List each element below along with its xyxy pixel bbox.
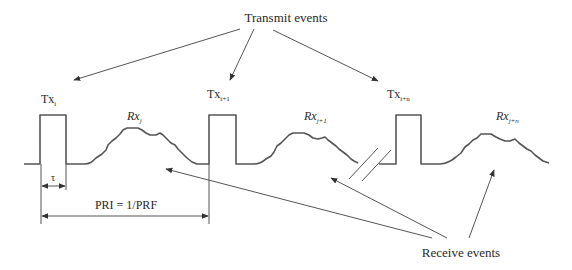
receive-events-label: Receive events bbox=[422, 245, 500, 260]
dimension-extension-lines bbox=[41, 164, 209, 224]
arrow-to-tx-in bbox=[273, 30, 378, 81]
rx-label-jn: Rxj+n bbox=[495, 109, 519, 125]
svg-text:Txi: Txi bbox=[41, 92, 56, 108]
receive-arrows bbox=[166, 169, 494, 238]
rx-label-j: Rxj bbox=[126, 109, 142, 125]
svg-text:Txi+1: Txi+1 bbox=[207, 87, 230, 103]
tx-label-in: Txi+n bbox=[387, 87, 410, 103]
svg-text:Rxj: Rxj bbox=[126, 109, 142, 125]
arrow-to-rx-j1 bbox=[331, 178, 447, 238]
rx-label-j1: Rxj+1 bbox=[303, 109, 327, 125]
pri-label: PRI = 1/PRF bbox=[95, 198, 157, 212]
tx-label-i: Txi bbox=[41, 92, 56, 108]
svg-text:Rxj+n: Rxj+n bbox=[495, 109, 519, 125]
transmit-events-label: Transmit events bbox=[245, 10, 328, 25]
arrow-to-tx-i1 bbox=[230, 29, 254, 80]
transmit-arrows bbox=[74, 29, 378, 81]
svg-text:Rxj+1: Rxj+1 bbox=[303, 109, 327, 125]
tx-label-i1: Txi+1 bbox=[207, 87, 230, 103]
arrow-to-rx-j bbox=[166, 169, 432, 238]
arrow-to-rx-jn bbox=[469, 170, 494, 238]
waveform-segment-2 bbox=[379, 115, 549, 164]
arrow-to-tx-i bbox=[74, 29, 240, 80]
tau-label: τ bbox=[51, 172, 55, 183]
svg-text:Txi+n: Txi+n bbox=[387, 87, 410, 103]
radar-timing-diagram: Transmit events Txi Txi+1 Txi+n Rxj Rxj+… bbox=[0, 0, 572, 270]
